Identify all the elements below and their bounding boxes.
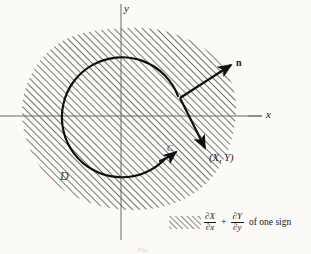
partial-X-numerator: ∂X <box>203 212 217 222</box>
figure-caption: Fig. <box>138 246 149 254</box>
x-axis-label: x <box>266 109 271 120</box>
normal-vector-label: n <box>236 58 242 68</box>
hatch-swatch <box>169 216 201 229</box>
region-label-D: D <box>60 170 69 182</box>
partial-y-fraction: ∂Y ∂y <box>231 212 244 233</box>
partial-y-denominator: ∂y <box>231 222 243 233</box>
legend: ∂X ∂x + ∂Y ∂y of one sign <box>169 212 291 233</box>
partial-x-denominator: ∂x <box>204 222 216 233</box>
figure-container: y x n (X, Y) D C ∂X ∂x + ∂Y ∂y of one si… <box>0 0 311 254</box>
legend-tail-text: of one sign <box>246 218 291 228</box>
partial-x-fraction: ∂X ∂x <box>203 212 217 233</box>
field-vector-label: (X, Y) <box>209 153 234 164</box>
partial-Y-numerator: ∂Y <box>231 212 244 222</box>
hatched-region-D <box>22 28 236 210</box>
y-axis-label: y <box>124 3 129 14</box>
plus-operator: + <box>219 217 229 227</box>
curve-label-C: C <box>167 144 173 153</box>
